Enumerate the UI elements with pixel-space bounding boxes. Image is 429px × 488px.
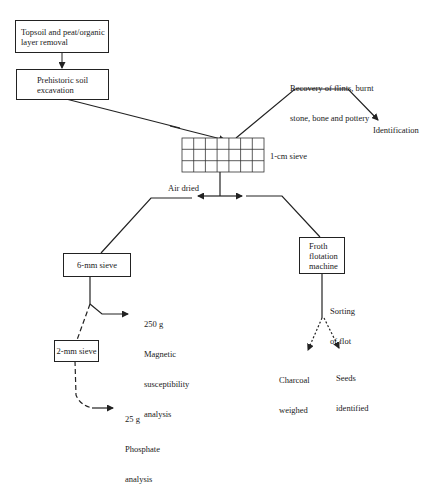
label-recovery: Recovery of flints, burnt stone, bone an… [290, 63, 374, 133]
label-seeds-line2: identified [336, 403, 369, 413]
label-sorting-line2: of flot [330, 336, 355, 346]
label-sorting: Sorting of flot [330, 286, 355, 356]
node-prehistoric-line2: excavation [37, 85, 88, 95]
sieve-1cm-grid-icon [182, 138, 264, 172]
label-1cm-sieve: 1-cm sieve [270, 151, 307, 161]
node-prehistoric-line1: Prehistoric soil [37, 75, 88, 85]
label-magnetic-line3: susceptibility [144, 379, 189, 389]
label-magnetic-line2: Magnetic [144, 349, 189, 359]
label-phosphate-line3: analysis [125, 474, 160, 484]
node-froth-line3: machine [309, 261, 338, 271]
label-seeds-line1: Seeds [336, 373, 369, 383]
label-charcoal: Charcoal weighed [279, 355, 310, 425]
node-froth: Froth flotation machine [299, 237, 345, 274]
label-phosphate: 25 g Phosphate analysis [125, 394, 160, 488]
node-topsoil-line1: Topsoil and peat/organic [21, 27, 105, 37]
label-identification: Identification [373, 125, 419, 135]
edge-airdried-6mm [101, 198, 192, 253]
node-topsoil-line2: layer removal [21, 37, 105, 47]
edge-prehistoric-sieve [66, 99, 180, 128]
node-2mm-sieve-label: 2-mm sieve [57, 346, 97, 356]
label-phosphate-line2: Phosphate [125, 444, 160, 454]
node-6mm-sieve: 6-mm sieve [63, 253, 131, 277]
node-6mm-sieve-label: 6-mm sieve [77, 260, 117, 270]
node-2mm-sieve: 2-mm sieve [54, 340, 99, 362]
label-air-dried: Air dried [168, 183, 199, 193]
label-sorting-line1: Sorting [330, 306, 355, 316]
node-prehistoric: Prehistoric soil excavation [16, 69, 109, 100]
label-charcoal-line1: Charcoal [279, 375, 310, 385]
node-froth-line2: flotation [309, 251, 338, 261]
edge-2mm-phosphate [75, 361, 92, 408]
edge-6mm-2mm [77, 304, 90, 340]
label-magnetic-line1: 250 g [144, 319, 189, 329]
label-charcoal-line2: weighed [279, 405, 310, 415]
edge-sieve-froth [246, 196, 320, 237]
edge-froth-charcoal [308, 318, 322, 350]
node-froth-line1: Froth [309, 241, 338, 251]
node-topsoil: Topsoil and peat/organic layer removal [15, 20, 109, 53]
label-recovery-line2: stone, bone and pottery [290, 113, 374, 123]
label-recovery-line1: Recovery of flints, burnt [290, 83, 374, 93]
label-seeds: Seeds identified [336, 353, 369, 423]
edge-6mm-magnetic [90, 304, 128, 314]
label-phosphate-line1: 25 g [125, 414, 160, 424]
